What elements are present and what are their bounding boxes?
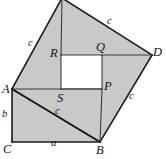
side-label-c-right: c <box>129 91 134 102</box>
geometry-figure: A B C D P Q R S c c c c a b <box>0 0 166 159</box>
vertex-label-A: A <box>2 83 10 96</box>
vertex-label-Q: Q <box>96 41 105 54</box>
figure-canvas <box>0 0 166 159</box>
side-label-c-diagonal: c <box>55 106 60 117</box>
side-label-c-left: c <box>28 38 33 49</box>
vertex-label-S: S <box>57 92 63 105</box>
vertex-label-P: P <box>104 80 112 93</box>
vertex-label-R: R <box>50 47 58 60</box>
inner-square-hole <box>61 55 102 89</box>
side-label-b-left: b <box>2 109 7 120</box>
vertex-label-D: D <box>153 46 162 59</box>
side-label-a-bottom: a <box>51 138 56 149</box>
vertex-label-B: B <box>96 144 104 157</box>
vertex-label-C: C <box>3 143 11 156</box>
side-label-c-top: c <box>107 16 112 27</box>
